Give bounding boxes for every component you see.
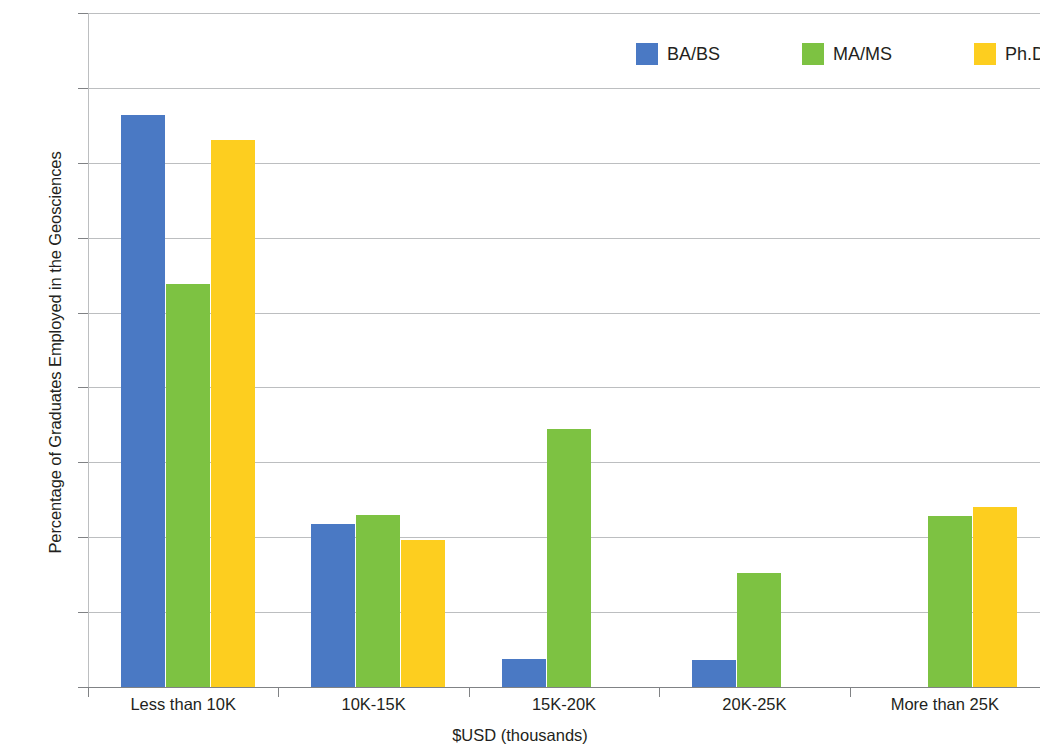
bar — [121, 115, 165, 687]
y-axis-tick-mark — [78, 687, 88, 688]
bar — [502, 659, 546, 687]
bar-group — [469, 13, 659, 687]
bar-group — [659, 13, 849, 687]
bar — [211, 140, 255, 687]
x-axis-line — [88, 687, 1040, 688]
bar — [401, 540, 445, 687]
y-axis-tick-mark — [78, 537, 88, 538]
legend-spacer — [892, 54, 974, 55]
y-axis-tick-mark — [78, 13, 88, 14]
bar — [356, 515, 400, 687]
bar-group — [88, 13, 278, 687]
y-axis-tick-mark — [78, 88, 88, 89]
bar — [692, 660, 736, 687]
y-axis-tick-mark — [78, 238, 88, 239]
bar — [737, 573, 781, 687]
y-axis-title: Percentage of Graduates Employed in the … — [46, 43, 65, 663]
y-axis-tick-mark — [78, 313, 88, 314]
chart-legend: BA/BSMA/MSPh.D. — [636, 43, 1040, 65]
legend-swatch-icon — [802, 43, 824, 65]
legend-swatch-icon — [636, 43, 658, 65]
legend-item-ph-d: Ph.D. — [974, 43, 1040, 65]
bar — [547, 429, 591, 687]
legend-swatch-icon — [974, 43, 996, 65]
y-axis-tick-mark — [78, 387, 88, 388]
bar — [973, 507, 1017, 687]
x-axis-tick-label: More than 25K — [825, 695, 1040, 714]
legend-label: Ph.D. — [1005, 44, 1040, 65]
chart-figure: Percentage of Graduates Employed in the … — [0, 0, 1040, 751]
bar-group — [278, 13, 468, 687]
legend-item-ba-bs: BA/BS — [636, 43, 720, 65]
legend-label: MA/MS — [833, 44, 892, 65]
bar-group — [850, 13, 1040, 687]
y-axis-tick-mark — [78, 163, 88, 164]
bar — [928, 516, 972, 687]
legend-spacer — [720, 54, 802, 55]
y-axis-tick-mark — [78, 612, 88, 613]
legend-label: BA/BS — [667, 44, 720, 65]
bar — [311, 524, 355, 687]
x-axis-title: $USD (thousands) — [0, 726, 1040, 745]
bar — [166, 284, 210, 687]
y-axis-tick-mark — [78, 462, 88, 463]
legend-item-ma-ms: MA/MS — [802, 43, 892, 65]
